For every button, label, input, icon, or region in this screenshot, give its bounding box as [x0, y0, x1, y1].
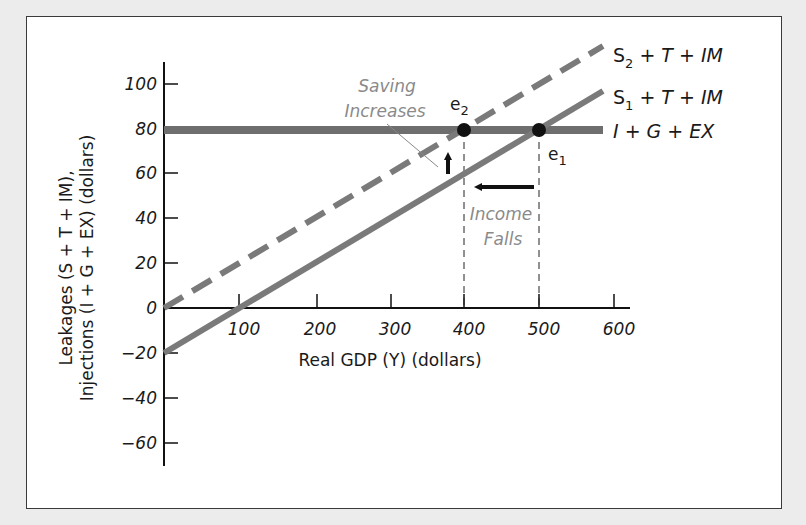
svg-text:Saving: Saving — [358, 76, 416, 96]
label-injections: I + G + EX — [613, 120, 715, 142]
y-ticks — [164, 84, 178, 443]
point-e2 — [457, 123, 471, 137]
svg-text:Falls: Falls — [484, 229, 523, 249]
svg-text:200: 200 — [304, 319, 336, 339]
svg-text:100: 100 — [228, 319, 260, 339]
svg-text:600: 600 — [603, 319, 635, 339]
svg-text:80: 80 — [135, 119, 157, 139]
annotation-income-falls: Income Falls — [470, 204, 533, 249]
point-e1 — [532, 123, 546, 137]
svg-text:Injections (I + G + EX) (dolla: Injections (I + G + EX) (dollars) — [77, 135, 97, 402]
label-s2: S2 + T + IM — [613, 44, 723, 71]
label-e2: e2 — [450, 94, 469, 118]
y-axis-title: Leakages (S + T + IM), Injections (I + G… — [56, 135, 97, 402]
svg-text:400: 400 — [453, 319, 485, 339]
svg-text:−20: −20 — [121, 343, 157, 363]
svg-text:Income: Income — [470, 204, 533, 224]
svg-text:Increases: Increases — [344, 101, 425, 121]
leakages-injections-chart: 100 80 60 40 20 0 −20 −40 −60 100 200 30… — [0, 0, 806, 525]
svg-text:60: 60 — [135, 163, 157, 183]
annotation-saving-increases: Saving Increases — [344, 76, 425, 121]
svg-text:Leakages (S + T + IM),: Leakages (S + T + IM), — [56, 170, 76, 365]
x-tick-labels: 100 200 300 400 500 600 — [228, 319, 635, 339]
svg-text:40: 40 — [135, 208, 157, 228]
svg-text:500: 500 — [528, 319, 560, 339]
svg-text:20: 20 — [135, 253, 157, 273]
x-axis-title: Real GDP (Y) (dollars) — [298, 350, 481, 370]
y-tick-labels: 100 80 60 40 20 0 −20 −40 −60 — [121, 74, 157, 453]
svg-text:300: 300 — [379, 319, 411, 339]
svg-text:100: 100 — [125, 74, 157, 94]
svg-text:−40: −40 — [121, 388, 157, 408]
x-ticks — [239, 294, 614, 308]
svg-text:−60: −60 — [121, 433, 157, 453]
label-e1: e1 — [548, 144, 567, 168]
label-s1: S1 + T + IM — [613, 86, 723, 113]
svg-text:0: 0 — [146, 298, 157, 318]
